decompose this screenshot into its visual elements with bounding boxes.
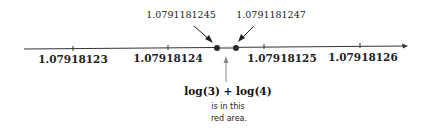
annotation-line-1: is in this	[211, 102, 244, 111]
point-dot-right	[233, 45, 239, 51]
tick-label-3: 1.07918125	[247, 52, 316, 64]
point-dot-left	[214, 45, 220, 51]
point-label-right: 1.0791181247	[236, 9, 306, 20]
tick-label-4: 1.07918126	[328, 51, 397, 63]
arrowhead-right-icon	[238, 34, 245, 42]
axis-arrowhead-icon	[402, 44, 408, 49]
annotation-formula: log(3) + log(4)	[184, 85, 271, 97]
annotation-line-2: red area.	[211, 114, 247, 123]
annotation-arrowhead-icon	[224, 56, 229, 63]
point-label-left: 1.0791181245	[146, 9, 216, 20]
number-line-diagram: 1.0791181245 1.0791181247 1.07918123 1.0…	[0, 0, 427, 130]
tick-label-2: 1.07918124	[133, 52, 202, 64]
tick-label-1: 1.07918123	[38, 53, 107, 65]
